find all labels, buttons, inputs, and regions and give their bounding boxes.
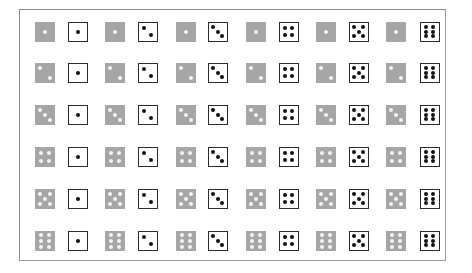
pip: [424, 150, 428, 154]
pip: [149, 242, 153, 246]
pip: [249, 192, 253, 196]
pip: [319, 192, 323, 196]
white-die-5: [349, 189, 369, 209]
pip: [424, 113, 428, 117]
white-die-6: [420, 147, 440, 167]
pip: [113, 113, 117, 117]
pip: [258, 239, 262, 243]
pip: [47, 233, 51, 237]
pip: [250, 239, 254, 243]
white-die-6: [420, 231, 440, 251]
pip: [48, 76, 52, 80]
pip: [47, 151, 51, 155]
gray-die-5: [386, 189, 406, 209]
pip: [389, 108, 393, 112]
pip: [109, 233, 113, 237]
pip: [118, 76, 122, 80]
pip: [290, 193, 294, 197]
pip: [117, 239, 121, 243]
white-die-4: [279, 147, 299, 167]
pip: [38, 108, 42, 112]
pip: [149, 200, 153, 204]
pip: [320, 233, 324, 237]
white-die-4: [279, 22, 299, 42]
pip: [249, 66, 253, 70]
pip: [352, 75, 356, 79]
pip: [283, 158, 287, 162]
white-die-3: [208, 63, 228, 83]
pip: [352, 201, 356, 205]
pip: [108, 202, 112, 206]
pip: [424, 197, 428, 201]
gray-die-1: [176, 22, 196, 42]
white-die-5: [349, 231, 369, 251]
pip: [283, 242, 287, 246]
pip: [184, 30, 188, 34]
pip: [352, 192, 356, 196]
pip: [48, 202, 52, 206]
pip: [329, 118, 333, 122]
pip: [48, 192, 52, 196]
pip: [394, 113, 398, 117]
pip: [424, 66, 428, 70]
pip: [357, 155, 361, 159]
gray-die-4: [316, 147, 336, 167]
gray-die-6: [105, 231, 125, 251]
pip: [352, 34, 356, 38]
pip: [113, 197, 117, 201]
pip: [424, 201, 428, 205]
pip: [118, 202, 122, 206]
pip: [357, 197, 361, 201]
pip: [76, 197, 80, 201]
gray-die-4: [176, 147, 196, 167]
pip: [109, 239, 113, 243]
pip: [216, 113, 220, 117]
pip: [76, 239, 80, 243]
pip: [47, 239, 51, 243]
gray-die-2: [176, 63, 196, 83]
pip: [283, 235, 287, 239]
white-die-2: [138, 105, 158, 125]
pip: [38, 66, 42, 70]
pip: [43, 113, 47, 117]
pip: [352, 25, 356, 29]
pip: [361, 159, 365, 163]
white-die-4: [279, 105, 299, 125]
pip: [283, 109, 287, 113]
pip: [108, 192, 112, 196]
pip: [179, 66, 183, 70]
pip: [328, 151, 332, 155]
pip: [431, 113, 435, 117]
pip: [108, 66, 112, 70]
pip: [352, 234, 356, 238]
pip: [109, 245, 113, 249]
pip: [389, 202, 393, 206]
pip: [76, 155, 80, 159]
pip: [254, 30, 258, 34]
pip: [117, 151, 121, 155]
pip: [283, 67, 287, 71]
pip: [361, 192, 365, 196]
pip: [398, 159, 402, 163]
pip: [211, 66, 215, 70]
pip: [258, 159, 262, 163]
pip: [431, 66, 435, 70]
pip: [361, 234, 365, 238]
pip: [142, 26, 146, 30]
pip: [352, 66, 356, 70]
pip: [216, 197, 220, 201]
pip: [361, 66, 365, 70]
pip: [220, 159, 224, 163]
pip: [39, 151, 43, 155]
white-die-4: [279, 231, 299, 251]
pip: [290, 26, 294, 30]
pip: [47, 159, 51, 163]
white-die-1: [68, 231, 88, 251]
pip: [431, 155, 435, 159]
gray-die-6: [316, 231, 336, 251]
pip: [431, 192, 435, 196]
pip: [216, 71, 220, 75]
gray-die-4: [386, 147, 406, 167]
white-die-4: [279, 189, 299, 209]
pip: [109, 159, 113, 163]
